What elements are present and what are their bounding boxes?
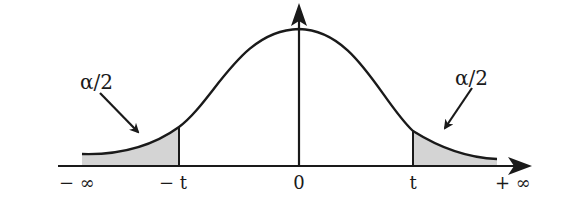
neg-t-label: − t	[159, 172, 188, 193]
pos-inf-label: + ∞	[495, 172, 531, 193]
left-tail-label: α/2	[80, 70, 113, 94]
right-tail-label: α/2	[455, 66, 488, 90]
right-annotation-arrow	[445, 88, 472, 128]
left-annotation-arrow	[100, 93, 138, 132]
zero-label: 0	[293, 172, 304, 193]
density-curve	[82, 29, 497, 159]
right-tail-region	[413, 131, 497, 166]
left-tail-region	[82, 127, 179, 166]
pos-t-label: t	[409, 172, 417, 193]
t-distribution-diagram: α/2 α/2 − ∞ − t 0 t + ∞	[0, 0, 563, 198]
neg-inf-label: − ∞	[59, 172, 95, 193]
